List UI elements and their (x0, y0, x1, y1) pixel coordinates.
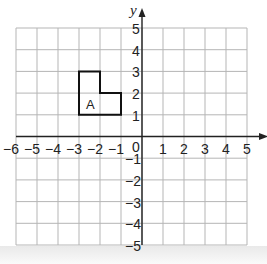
y-tick-label: 5 (132, 21, 140, 37)
x-axis-arrow-icon (259, 133, 267, 140)
shape-label-a: A (86, 97, 95, 112)
y-tick-label: 2 (132, 86, 140, 102)
x-tick-label: 1 (159, 141, 167, 157)
y-axis-label: y (128, 2, 137, 18)
x-tick-label: −6 (3, 141, 19, 157)
y-tick-label: −3 (125, 195, 141, 211)
y-tick-label: 4 (132, 43, 140, 59)
x-tick-label: −5 (24, 141, 40, 157)
y-tick-label: −1 (125, 151, 141, 167)
y-tick-label: −5 (125, 238, 141, 254)
x-tick-label: −1 (108, 141, 124, 157)
y-tick-label: 1 (132, 108, 140, 124)
x-tick-label: 4 (222, 141, 230, 157)
x-tick-label: −4 (45, 141, 61, 157)
x-tick-label: 3 (201, 141, 209, 157)
x-tick-label: 2 (180, 141, 188, 157)
x-tick-label: −2 (87, 141, 103, 157)
y-tick-label: −4 (125, 216, 141, 232)
coordinate-grid-figure: xy−6−5−4−3−2−112345054321−1−2−3−4−5A (0, 0, 267, 264)
y-tick-label: −2 (125, 173, 141, 189)
x-tick-label: 5 (243, 141, 251, 157)
coordinate-plane: xy−6−5−4−3−2−112345054321−1−2−3−4−5A (0, 0, 267, 264)
y-tick-label: 3 (132, 64, 140, 80)
y-axis-arrow-icon (139, 8, 146, 17)
x-tick-label: −3 (66, 141, 82, 157)
